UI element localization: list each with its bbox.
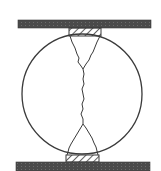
- crack-lower-right: [83, 124, 98, 155]
- top-bearing-strip: [69, 28, 101, 36]
- bottom-bearing-strip: [66, 155, 99, 162]
- splitting-test-diagram: [0, 0, 161, 171]
- top-plate: [18, 20, 151, 28]
- crack-upper-left: [70, 36, 83, 69]
- crack-upper-right: [83, 36, 100, 69]
- crack-center: [81, 69, 84, 124]
- crack-lower-left: [67, 124, 83, 155]
- bottom-plate: [16, 162, 150, 171]
- specimen-circle: [22, 34, 142, 154]
